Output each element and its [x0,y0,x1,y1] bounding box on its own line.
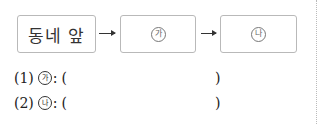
question-2-colon: : [53,95,58,111]
circled-ga-marker: 가 [151,27,166,42]
question-2-number: (2) [14,95,34,111]
question-1-open-paren: ( [62,70,67,86]
flow-box-start: 동네 앞 [17,15,96,53]
question-2-marker: 나 [38,96,52,110]
dotted-divider [316,0,317,124]
flow-box-na: 나 [220,15,297,53]
flow-box-ga: 가 [120,15,196,53]
question-2-close-paren: ) [215,95,220,111]
flow-box-start-label: 동네 앞 [28,22,85,47]
question-2: (2) 나 : ( [14,95,67,111]
question-1: (1) 가 : ( [14,70,67,86]
circled-na-marker: 나 [251,27,266,42]
question-1-colon: : [53,70,58,86]
question-2-open-paren: ( [62,95,67,111]
question-1-close-paren: ) [215,70,220,86]
arrow-right-icon [99,33,115,34]
question-1-marker: 가 [38,71,52,85]
question-1-number: (1) [14,70,34,86]
arrow-right-icon [201,33,216,34]
